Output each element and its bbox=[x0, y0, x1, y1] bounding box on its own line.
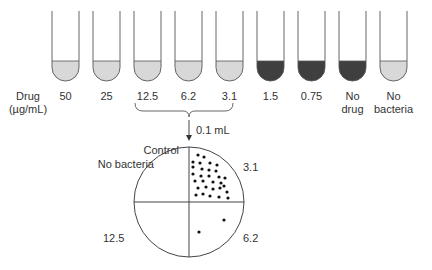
transfer-volume-label: 0.1 mL bbox=[196, 124, 230, 137]
test-tube-12-5 bbox=[134, 11, 161, 81]
tube-liquid bbox=[134, 61, 161, 81]
quadrant-label-3-1: 3.1 bbox=[243, 161, 258, 174]
colony-dot bbox=[218, 186, 221, 189]
colony-dot bbox=[208, 194, 211, 197]
colony-dot bbox=[225, 190, 228, 193]
colony-dot bbox=[211, 187, 214, 190]
colony-dot bbox=[199, 174, 202, 177]
test-tube-no-drug bbox=[339, 11, 366, 81]
arrow-head-icon bbox=[186, 135, 192, 141]
tube-liquid bbox=[257, 61, 284, 81]
colony-dot bbox=[214, 169, 217, 172]
test-tube-6-2 bbox=[175, 11, 202, 81]
drug-row-label: Drug (µg/mL) bbox=[8, 90, 48, 116]
colony-dot bbox=[198, 161, 201, 164]
colony-dot bbox=[196, 186, 199, 189]
colony-dot bbox=[200, 167, 203, 170]
quadrant-label-6-2: 6.2 bbox=[243, 232, 258, 245]
control-label: Control bbox=[103, 144, 179, 157]
tube-liquid bbox=[298, 61, 325, 81]
tube-label: Nobacteria bbox=[364, 90, 424, 116]
colony-dot bbox=[204, 185, 207, 188]
test-tube-25 bbox=[93, 11, 120, 81]
colony-dot bbox=[226, 196, 229, 199]
test-tube-1-5 bbox=[257, 11, 284, 81]
colony-dot bbox=[217, 195, 220, 198]
colony-dot bbox=[223, 176, 226, 179]
colony-dot bbox=[191, 172, 194, 175]
colony-dot bbox=[207, 174, 210, 177]
tube-liquid bbox=[175, 61, 202, 81]
tube-label-line2: bacteria bbox=[364, 103, 424, 116]
colony-dot bbox=[208, 161, 211, 164]
colony-dot bbox=[202, 155, 205, 158]
colony-dot bbox=[193, 179, 196, 182]
colony-dot bbox=[197, 230, 200, 233]
test-tube-0-75 bbox=[298, 11, 325, 81]
colony-dot bbox=[217, 175, 220, 178]
colony-dot bbox=[191, 160, 194, 163]
test-tube-no-bacteria bbox=[380, 11, 407, 81]
tube-liquid bbox=[93, 61, 120, 81]
colony-dot bbox=[222, 184, 225, 187]
test-tube-3-1 bbox=[216, 11, 243, 81]
tube-liquid bbox=[52, 61, 79, 81]
colony-dot bbox=[219, 181, 222, 184]
colony-dot bbox=[201, 192, 204, 195]
control-text: Control bbox=[103, 144, 179, 157]
tube-label-line1: No bbox=[364, 90, 424, 103]
colony-dot bbox=[194, 193, 197, 196]
colony-dot bbox=[207, 168, 210, 171]
drug-label: Drug bbox=[8, 90, 48, 103]
unit-label: (µg/mL) bbox=[8, 103, 48, 116]
no-bacteria-label: No bacteria bbox=[64, 158, 154, 171]
colony-dot bbox=[201, 179, 204, 182]
tube-liquid bbox=[339, 61, 366, 81]
colony-dot bbox=[196, 153, 199, 156]
test-tubes bbox=[52, 11, 407, 81]
colony-dot bbox=[215, 163, 218, 166]
colony-dot bbox=[211, 180, 214, 183]
tube-liquid bbox=[380, 61, 407, 81]
colony-dot bbox=[191, 165, 194, 168]
quadrant-label-12-5: 12.5 bbox=[103, 232, 124, 245]
test-tube-50 bbox=[52, 11, 79, 81]
tube-liquid bbox=[216, 61, 243, 81]
colony-dot bbox=[222, 218, 225, 221]
brace bbox=[135, 103, 233, 117]
